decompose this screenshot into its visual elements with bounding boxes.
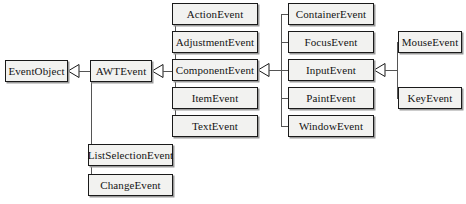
generalization-arrow-awtevent: [152, 65, 163, 78]
generalization-arrow-eventobject: [68, 65, 79, 78]
class-box-focusevent: FocusEvent: [288, 31, 374, 53]
generalization-arrow-componentevent: [258, 64, 269, 77]
class-box-listselectionevent: ListSelectionEvent: [88, 144, 173, 166]
class-box-label: ChangeEvent: [96, 180, 164, 191]
class-box-label: InputEvent: [302, 65, 360, 76]
class-box-label: MouseEvent: [398, 37, 463, 48]
class-box-eventobject: EventObject: [5, 60, 68, 82]
class-box-inputevent: InputEvent: [288, 59, 374, 81]
class-box-mouseevent: MouseEvent: [398, 31, 462, 53]
class-box-label: ListSelectionEvent: [84, 150, 178, 161]
class-box-changeevent: ChangeEvent: [88, 174, 173, 196]
class-box-label: ActionEvent: [183, 9, 248, 20]
class-box-windowevent: WindowEvent: [288, 115, 374, 137]
class-box-itemevent: ItemEvent: [172, 87, 258, 109]
class-box-label: ContainerEvent: [292, 9, 370, 20]
class-box-keyevent: KeyEvent: [398, 87, 462, 109]
class-box-label: EventObject: [4, 66, 68, 77]
class-box-label: PaintEvent: [302, 93, 359, 104]
generalization-arrow-inputevent: [374, 64, 385, 77]
class-box-label: FocusEvent: [301, 37, 362, 48]
class-box-label: KeyEvent: [404, 93, 457, 104]
class-box-adjustmentevent: AdjustmentEvent: [172, 31, 258, 53]
class-box-label: ItemEvent: [188, 93, 243, 104]
class-box-label: WindowEvent: [295, 121, 367, 132]
class-box-label: ComponentEvent: [172, 65, 258, 76]
class-box-label: AWTEvent: [92, 66, 151, 77]
class-box-label: TextEvent: [188, 121, 242, 132]
class-box-label: AdjustmentEvent: [172, 37, 259, 48]
class-box-containerevent: ContainerEvent: [288, 3, 374, 25]
class-box-awtevent: AWTEvent: [90, 60, 152, 82]
class-hierarchy-diagram: EventObjectAWTEventListSelectionEventCha…: [0, 0, 466, 204]
class-box-paintevent: PaintEvent: [288, 87, 374, 109]
class-box-actionevent: ActionEvent: [172, 3, 258, 25]
class-box-componentevent: ComponentEvent: [172, 59, 258, 81]
class-box-textevent: TextEvent: [172, 115, 258, 137]
